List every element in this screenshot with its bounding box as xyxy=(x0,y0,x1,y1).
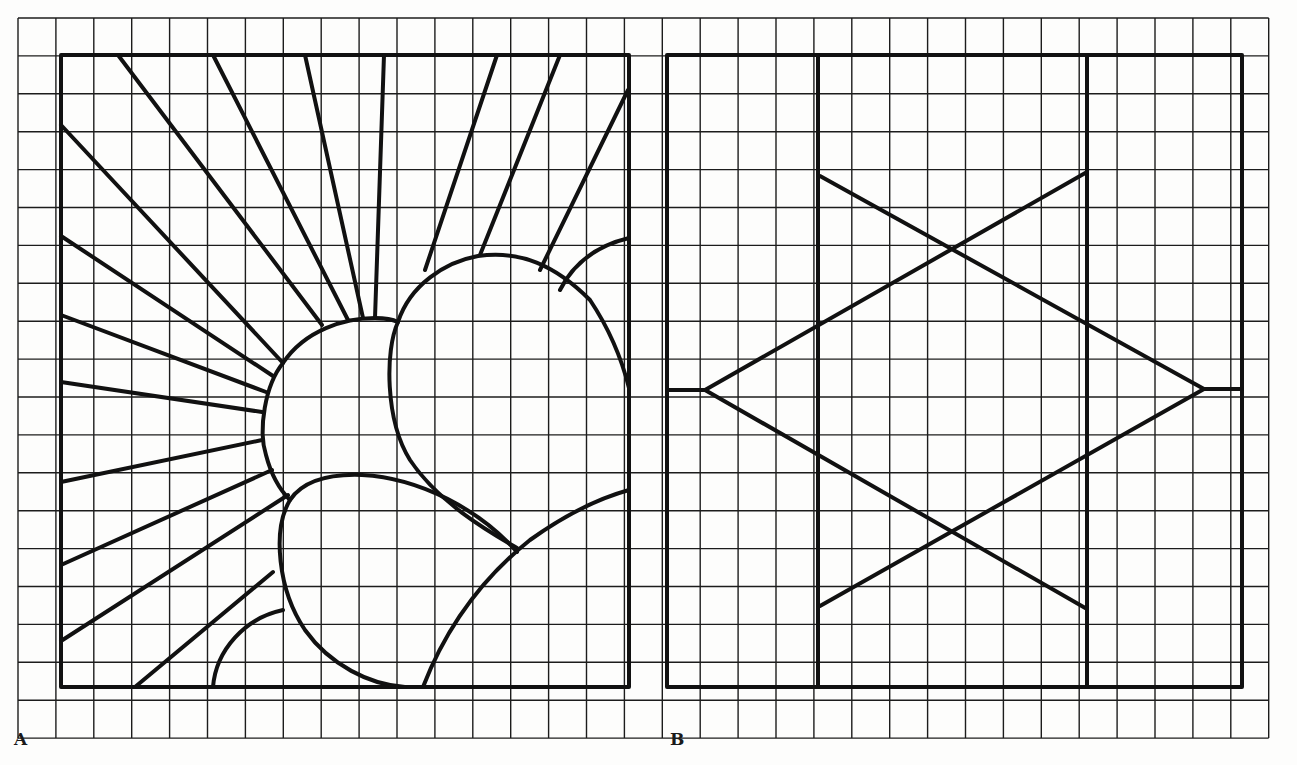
pattern-figure: A B xyxy=(0,0,1297,765)
panel-a-label: A xyxy=(14,729,27,749)
sun-ray xyxy=(61,315,266,392)
flower-curve xyxy=(213,610,283,687)
panel-a-sunburst-pattern xyxy=(61,55,629,687)
sun-ray xyxy=(213,55,348,320)
sun-ray xyxy=(135,572,273,687)
sun-ray xyxy=(61,495,288,641)
panel-frame xyxy=(667,55,1242,687)
flower-curve xyxy=(280,475,517,687)
star-edge xyxy=(705,390,1087,609)
star-edge xyxy=(705,172,1087,390)
sun-ray xyxy=(61,440,262,482)
panel-b-label: B xyxy=(670,729,684,749)
panel-b-star-pattern xyxy=(667,55,1242,687)
grid-drawing xyxy=(0,0,1297,765)
star-edge xyxy=(820,389,1204,606)
sun-ray xyxy=(61,470,272,565)
sun-ray xyxy=(118,55,322,325)
flower-curve xyxy=(423,490,629,687)
panel-frame xyxy=(61,55,629,687)
